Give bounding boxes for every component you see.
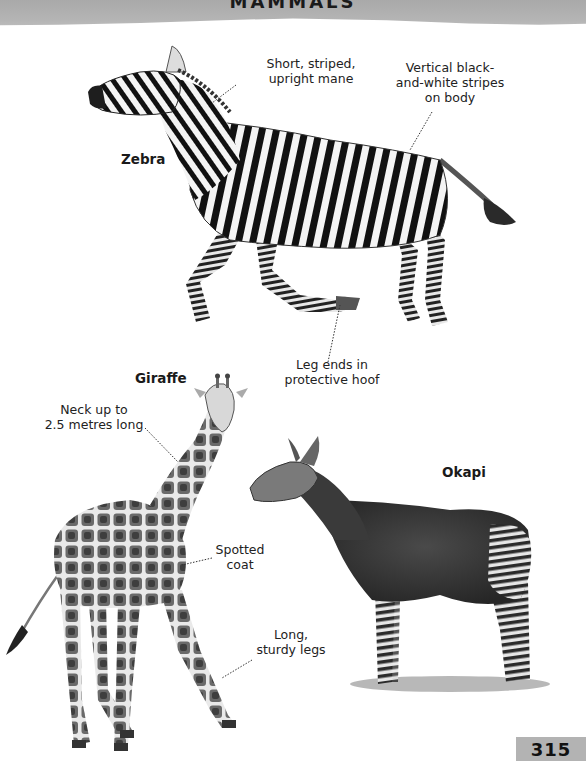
- zebra-stripes-annotation: Vertical black- and-white stripes on bod…: [380, 60, 520, 105]
- giraffe-legs-annotation: Long, sturdy legs: [246, 627, 336, 657]
- zebra-mane-annotation: Short, striped, upright mane: [256, 56, 366, 86]
- giraffe-neck-annotation: Neck up to 2.5 metres long: [34, 402, 154, 432]
- giraffe-name-label: Giraffe: [135, 370, 187, 386]
- okapi-name-label: Okapi: [442, 464, 486, 480]
- zebra-name-label: Zebra: [121, 151, 165, 167]
- illustrations: [0, 0, 586, 779]
- page-number: 315: [531, 739, 572, 760]
- page-number-badge: 315: [516, 737, 586, 761]
- giraffe-coat-annotation: Spotted coat: [210, 542, 270, 572]
- zebra-hoof-annotation: Leg ends in protective hoof: [272, 357, 392, 387]
